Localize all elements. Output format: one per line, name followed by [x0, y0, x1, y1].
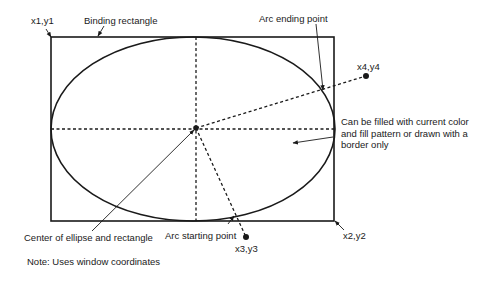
label-x2y2: x2,y2 [343, 230, 366, 242]
label-binding-rectangle: Binding rectangle [84, 15, 157, 27]
label-x4y4: x4,y4 [357, 61, 380, 73]
fill-note-arrow [293, 137, 333, 143]
binding-rectangle [51, 37, 334, 221]
x3y3-point [243, 234, 249, 240]
x4y4-point [363, 73, 369, 79]
binding-rectangle-arrow [98, 26, 104, 36]
center-point [193, 125, 199, 131]
label-note: Note: Uses window coordinates [27, 256, 160, 268]
x1y1-arrow [46, 29, 51, 37]
label-center: Center of ellipse and rectangle [24, 232, 153, 244]
label-x3y3: x3,y3 [235, 243, 258, 255]
label-fill-note: Can be filled with current color and fil… [341, 116, 486, 151]
x2y2-arrow [335, 221, 344, 230]
label-x1y1: x1,y1 [31, 15, 54, 27]
label-arc-ending-point: Arc ending point [259, 13, 328, 25]
label-arc-starting-point: Arc starting point [165, 230, 236, 242]
ellipse [51, 37, 335, 221]
arc-ending-arrow [316, 24, 323, 90]
